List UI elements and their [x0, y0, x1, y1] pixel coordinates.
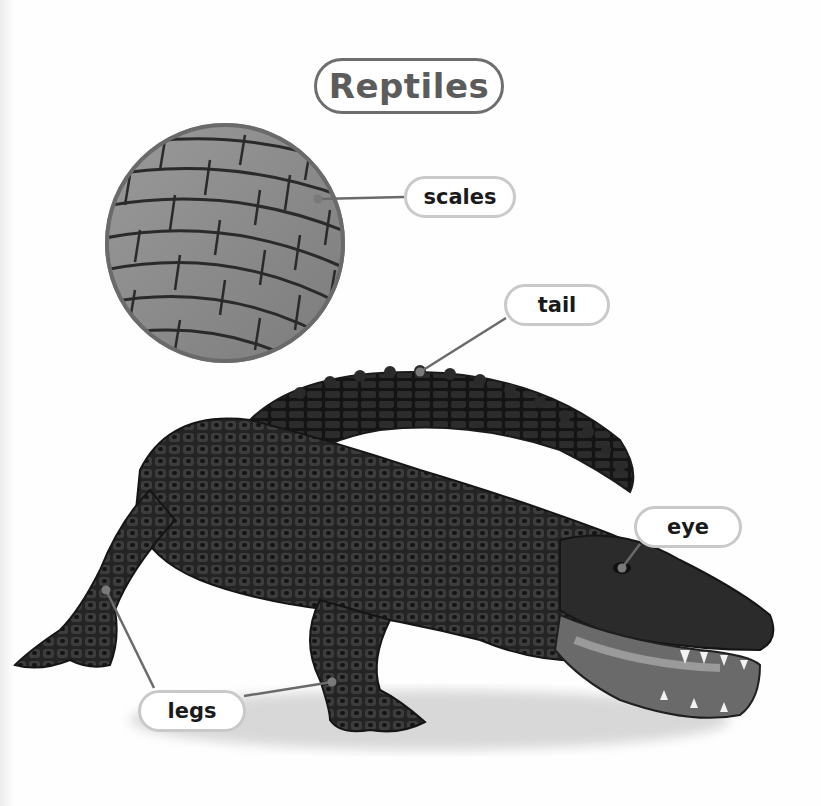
leader-line-tail	[420, 318, 506, 372]
label-legs: legs	[138, 690, 246, 732]
marker-dot-eye	[618, 564, 627, 573]
label-eye: eye	[634, 506, 742, 548]
label-scales: scales	[404, 176, 516, 218]
alligator-illustration	[0, 0, 821, 806]
marker-dot-tail	[416, 368, 425, 377]
alligator-front-left-leg	[15, 490, 175, 668]
scales-inset	[95, 123, 365, 395]
marker-dot-legs-1	[102, 586, 111, 595]
page-title: Reptiles	[314, 58, 504, 114]
label-tail: tail	[504, 284, 610, 326]
diagram-page: Reptiles scales tail eye legs	[0, 0, 821, 806]
marker-dot-scales	[314, 195, 323, 204]
marker-dot-legs-2	[328, 678, 337, 687]
